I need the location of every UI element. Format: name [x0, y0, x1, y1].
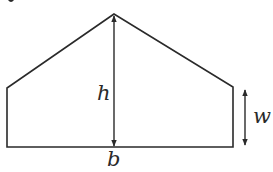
wall-label: w	[253, 104, 271, 128]
house-profile-diagram: h w b	[0, 0, 273, 172]
house-outline	[7, 14, 233, 147]
height-label: h	[97, 81, 111, 105]
cropped-fragment	[8, 0, 14, 2]
base-label: b	[107, 147, 120, 171]
